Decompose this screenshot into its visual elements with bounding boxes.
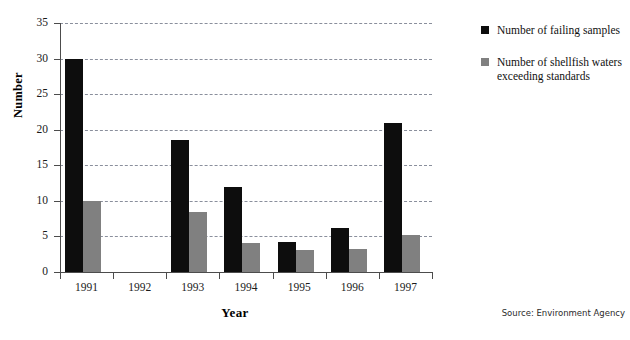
x-tick-label: 1992 bbox=[110, 281, 170, 293]
x-tick-label: 1997 bbox=[375, 281, 435, 293]
x-tick-mark bbox=[379, 272, 380, 279]
bar-1997-series-1 bbox=[402, 235, 420, 272]
bar-1995-series-0 bbox=[278, 242, 296, 272]
bar-1996-series-1 bbox=[349, 249, 367, 272]
x-tick-mark bbox=[273, 272, 274, 279]
legend-entry-0: Number of failing samples bbox=[481, 23, 629, 38]
x-tick-mark bbox=[166, 272, 167, 279]
x-tick-mark bbox=[432, 272, 433, 279]
x-axis-line bbox=[60, 272, 432, 273]
bar-1994-series-0 bbox=[224, 187, 242, 272]
x-tick-label: 1994 bbox=[216, 281, 276, 293]
legend: Number of failing samplesNumber of shell… bbox=[481, 23, 629, 101]
y-tick-label: 15 bbox=[8, 159, 48, 171]
y-tick-label: 0 bbox=[8, 266, 48, 278]
legend-swatch-icon bbox=[481, 26, 489, 34]
y-tick-label: 5 bbox=[8, 230, 48, 242]
y-tick-label: 30 bbox=[8, 53, 48, 65]
legend-entry-label: Number of shellfish watersexceeding stan… bbox=[497, 56, 622, 83]
x-tick-label: 1996 bbox=[322, 281, 382, 293]
x-tick-mark bbox=[113, 272, 114, 279]
x-tick-mark bbox=[60, 272, 61, 279]
y-tick-label: 10 bbox=[8, 195, 48, 207]
x-tick-mark bbox=[326, 272, 327, 279]
x-axis-title: Year bbox=[0, 305, 470, 321]
bar-1996-series-0 bbox=[331, 228, 349, 272]
legend-entry-1: Number of shellfish watersexceeding stan… bbox=[481, 55, 629, 84]
bar-chart-figure: 05101520253035 1991199219931994199519961… bbox=[0, 0, 630, 340]
bar-1991-series-1 bbox=[83, 201, 101, 272]
y-tick-label: 35 bbox=[8, 17, 48, 29]
x-tick-mark bbox=[219, 272, 220, 279]
x-tick-label: 1991 bbox=[57, 281, 117, 293]
y-axis-title: Number bbox=[11, 72, 26, 118]
bars-group bbox=[60, 23, 432, 272]
bar-1995-series-1 bbox=[296, 250, 314, 272]
bar-1991-series-0 bbox=[65, 59, 83, 272]
x-tick-label: 1995 bbox=[269, 281, 329, 293]
bar-1993-series-0 bbox=[171, 140, 189, 272]
bar-1997-series-0 bbox=[384, 123, 402, 272]
bar-1994-series-1 bbox=[242, 243, 260, 272]
y-tick-label: 20 bbox=[8, 124, 48, 136]
bar-1993-series-1 bbox=[189, 212, 207, 272]
legend-entry-label: Number of failing samples bbox=[497, 24, 620, 36]
legend-swatch-icon bbox=[481, 58, 489, 66]
source-note: Source: Environment Agency bbox=[430, 308, 625, 319]
x-tick-label: 1993 bbox=[163, 281, 223, 293]
